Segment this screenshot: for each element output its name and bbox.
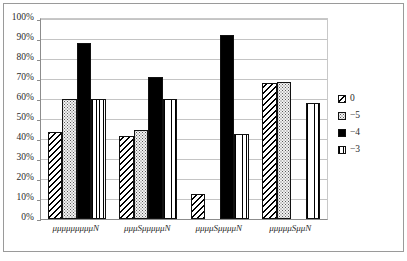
x-axis-tick-label: μμμSμμμμμN [112,224,184,233]
y-axis-tick-label: 70% [17,73,34,83]
y-axis-tick-label: 50% [17,113,34,123]
bar-group [184,19,256,219]
bar [234,134,249,219]
chart-legend: 0−5−4−3 [338,90,400,158]
chart-figure: 0%10%20%30%40%50%60%70%80%90%100% μμμμμμ… [0,0,407,261]
bar [119,136,134,219]
bar [91,99,106,219]
legend-item: −5 [338,107,400,124]
bar [48,132,63,219]
bar [62,99,77,219]
bar [77,43,92,219]
bar-group [256,19,328,219]
y-axis-tick-label: 80% [17,53,34,63]
legend-label: −3 [350,145,360,155]
y-axis-tick-label: 90% [17,33,34,43]
y-axis-tick-label: 40% [17,133,34,143]
legend-label: −4 [350,128,360,138]
x-axis-tick-label: μμμμSμμμμN [183,224,255,233]
bar [220,35,235,219]
y-axis-tick-label: 20% [17,173,34,183]
y-axis-tick-mark [37,220,41,221]
y-axis-tick-label: 100% [12,13,34,23]
y-axis-tick-label: 10% [17,193,34,203]
bar-group [41,19,113,219]
bar-series-container [41,19,327,219]
bar [277,82,292,219]
y-axis-tick-label: 0% [21,213,34,223]
bar [262,83,277,219]
y-axis-tick-label: 30% [17,153,34,163]
legend-label: −5 [350,111,360,121]
legend-item: −3 [338,141,400,158]
bar [191,194,206,219]
bar [306,103,321,219]
bar [134,130,149,219]
bar [163,99,178,219]
legend-item: −4 [338,124,400,141]
legend-swatch [338,146,346,154]
y-axis-tick-label: 60% [17,93,34,103]
bar [148,77,163,219]
legend-swatch [338,129,346,137]
x-axis-tick-label: μμμμμμμμμN [40,224,112,233]
legend-label: 0 [350,94,355,104]
legend-item: 0 [338,90,400,107]
bar-group [113,19,185,219]
gridline [41,219,327,220]
legend-swatch [338,112,346,120]
plot-area [40,18,328,220]
x-axis-tick-label: μμμμμSμμN [255,224,327,233]
legend-swatch [338,95,346,103]
